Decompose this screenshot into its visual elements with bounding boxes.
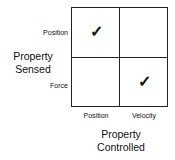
matrix-grid: ✓ ✓	[71, 7, 168, 107]
col-label-position: Position	[72, 112, 120, 119]
row-label-force: Force	[8, 82, 68, 89]
row-label-position: Position	[8, 29, 68, 36]
col-axis-title-line2: Controlled	[90, 141, 152, 154]
col-label-velocity: Velocity	[120, 112, 168, 119]
check-icon-force-velocity: ✓	[138, 74, 151, 90]
row-axis-title-line1: Property	[8, 50, 58, 63]
col-axis-title: Property Controlled	[90, 128, 152, 154]
row-axis-title-line2: Sensed	[8, 63, 58, 76]
horizontal-divider	[72, 57, 167, 58]
check-icon-position-position: ✓	[90, 24, 103, 40]
row-axis-title: Property Sensed	[8, 50, 58, 76]
col-axis-title-line1: Property	[90, 128, 152, 141]
